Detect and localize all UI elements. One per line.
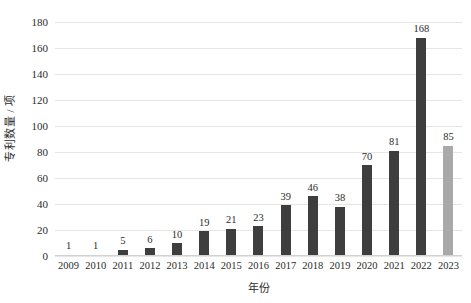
bar-value-label: 1 [93,241,98,252]
bar[interactable] [253,226,263,256]
bar-column[interactable]: 21 [218,22,245,256]
y-axis-tick-labels: 020406080100120140160180 [0,0,55,303]
bar-column[interactable]: 46 [299,22,326,256]
y-tick-label: 60 [37,172,48,184]
bar-column[interactable]: 70 [353,22,380,256]
bar-value-label: 70 [362,152,373,163]
y-tick-label: 80 [37,146,48,158]
x-axis-line [55,255,462,256]
bar-value-label: 85 [443,132,454,143]
y-tick-label: 180 [32,16,49,28]
bar[interactable] [199,231,209,256]
bar-value-label: 1 [66,241,71,252]
bar[interactable] [335,207,345,256]
y-tick-label: 40 [37,198,48,210]
bar-value-label: 81 [389,137,400,148]
bar-value-label: 10 [172,230,183,241]
y-tick-label: 140 [32,68,49,80]
bar-column[interactable]: 39 [272,22,299,256]
bar-value-label: 23 [253,213,264,224]
bar-column[interactable]: 81 [381,22,408,256]
bar[interactable] [226,229,236,256]
bar-value-label: 39 [280,192,291,203]
bar[interactable] [281,205,291,256]
bar-value-label: 38 [335,193,346,204]
bar[interactable] [416,38,426,256]
bar-column[interactable]: 1 [55,22,82,256]
x-axis-tick-labels: 2009201020112012201320142015201620172018… [55,260,462,276]
bar-column[interactable]: 38 [326,22,353,256]
y-tick-label: 0 [43,250,49,262]
bar-value-label: 5 [120,236,125,247]
bar-value-label: 168 [413,24,429,35]
gridline [55,256,462,257]
bar-value-label: 21 [226,215,237,226]
bar-value-label: 46 [308,183,319,194]
bar-chart: 专利数量 / 项 020406080100120140160180 115610… [0,0,471,303]
y-tick-label: 100 [32,120,49,132]
y-tick-label: 120 [32,94,49,106]
bar-column[interactable]: 19 [191,22,218,256]
bar-column[interactable]: 6 [136,22,163,256]
bar-column[interactable]: 23 [245,22,272,256]
bar-column[interactable]: 1 [82,22,109,256]
bar[interactable] [443,146,453,257]
x-axis-title: 年份 [55,279,462,295]
bar-value-label: 6 [147,235,152,246]
bar-value-label: 19 [199,218,210,229]
bar-column[interactable]: 168 [408,22,435,256]
bar-column[interactable]: 5 [109,22,136,256]
y-tick-label: 160 [32,42,49,54]
y-tick-label: 20 [37,224,48,236]
plot-area: 115610192123394638708116885 [55,22,462,256]
bar[interactable] [308,196,318,256]
bar-column[interactable]: 85 [435,22,462,256]
x-tick-label: 2023 [431,260,465,271]
bar-column[interactable]: 10 [164,22,191,256]
bar[interactable] [389,151,399,256]
bar[interactable] [362,165,372,256]
